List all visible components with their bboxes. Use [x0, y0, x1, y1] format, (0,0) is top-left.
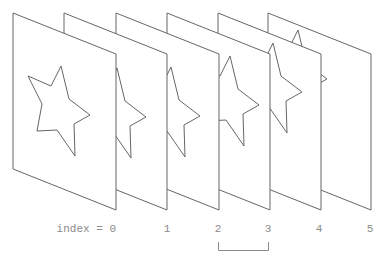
index-label-1: 1 [164, 223, 171, 235]
index-labels: index = 012345 [57, 223, 374, 235]
index-label-0: index = 0 [57, 223, 116, 235]
selection-bracket [219, 242, 269, 251]
index-label-3: 3 [265, 223, 272, 235]
frame-sequence-diagram: index = 012345 [0, 0, 381, 261]
frames-stack [13, 13, 371, 210]
index-label-2: 2 [215, 223, 222, 235]
index-label-4: 4 [316, 223, 323, 235]
index-label-5: 5 [367, 223, 374, 235]
